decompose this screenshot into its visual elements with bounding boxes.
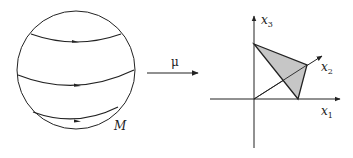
orbit-bottom-arrow-icon bbox=[74, 120, 81, 123]
diagram-canvas: M μ x3 x2 x1 bbox=[0, 0, 353, 158]
map-label: μ bbox=[171, 55, 179, 69]
simplex-triangle bbox=[254, 44, 307, 99]
orbit-bottom bbox=[33, 107, 118, 119]
coordinate-axes bbox=[210, 16, 340, 148]
orbit-top bbox=[31, 34, 121, 42]
x3-label: x3 bbox=[261, 13, 273, 29]
sphere-label: M bbox=[113, 119, 127, 133]
x2-label: x2 bbox=[321, 60, 333, 76]
x1-label: x1 bbox=[321, 104, 333, 120]
sphere-outline bbox=[17, 11, 135, 129]
orbit-middle bbox=[18, 70, 134, 85]
sphere-m bbox=[17, 11, 135, 129]
